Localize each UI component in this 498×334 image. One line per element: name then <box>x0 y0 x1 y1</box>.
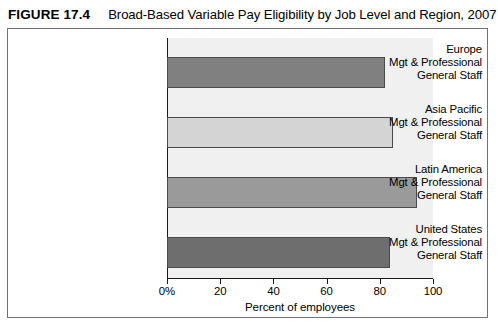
x-tick-label-40: 40 <box>267 285 279 297</box>
category-label-line-2: Mgt & Professional <box>335 56 482 69</box>
x-tick-label-20: 20 <box>214 285 226 297</box>
figure-container: FIGURE 17.4 Broad-Based Variable Pay Eli… <box>0 0 498 334</box>
category-label-line-1: United States <box>335 223 482 236</box>
x-tick-mark-40 <box>273 279 274 284</box>
category-label-europe: EuropeMgt & ProfessionalGeneral Staff <box>335 43 487 83</box>
category-label-line-3: General Staff <box>335 69 482 82</box>
figure-title: Broad-Based Variable Pay Eligibility by … <box>108 7 496 22</box>
x-axis-title: Percent of employees <box>167 300 433 313</box>
x-tick-mark-20 <box>220 279 221 284</box>
category-label-line-1: Europe <box>335 43 482 56</box>
x-tick-mark-80 <box>380 279 381 284</box>
category-label-united-states: United StatesMgt & ProfessionalGeneral S… <box>335 223 487 263</box>
category-label-line-2: Mgt & Professional <box>335 236 482 249</box>
x-tick-mark-0 <box>167 279 168 284</box>
category-label-line-2: Mgt & Professional <box>335 176 482 189</box>
category-label-line-2: Mgt & Professional <box>335 116 482 129</box>
x-tick-label-0: 0% <box>159 285 175 297</box>
category-label-latin-america: Latin AmericaMgt & ProfessionalGeneral S… <box>335 163 487 203</box>
x-axis-line <box>167 278 433 279</box>
x-tick-label-60: 60 <box>320 285 332 297</box>
category-label-asia-pacific: Asia PacificMgt & ProfessionalGeneral St… <box>335 103 487 143</box>
category-label-line-3: General Staff <box>335 129 482 142</box>
x-tick-mark-100 <box>433 279 434 284</box>
figure-number-label: FIGURE 17.4 <box>8 7 99 22</box>
figure-frame: EuropeMgt & ProfessionalGeneral StaffAsi… <box>7 28 488 318</box>
x-tick-label-80: 80 <box>374 285 386 297</box>
x-tick-label-100: 100 <box>424 285 443 297</box>
figure-header: FIGURE 17.4 Broad-Based Variable Pay Eli… <box>8 2 490 26</box>
category-label-line-3: General Staff <box>335 189 482 202</box>
x-tick-mark-60 <box>327 279 328 284</box>
category-label-line-1: Asia Pacific <box>335 103 482 116</box>
category-label-line-3: General Staff <box>335 249 482 262</box>
category-label-line-1: Latin America <box>335 163 482 176</box>
